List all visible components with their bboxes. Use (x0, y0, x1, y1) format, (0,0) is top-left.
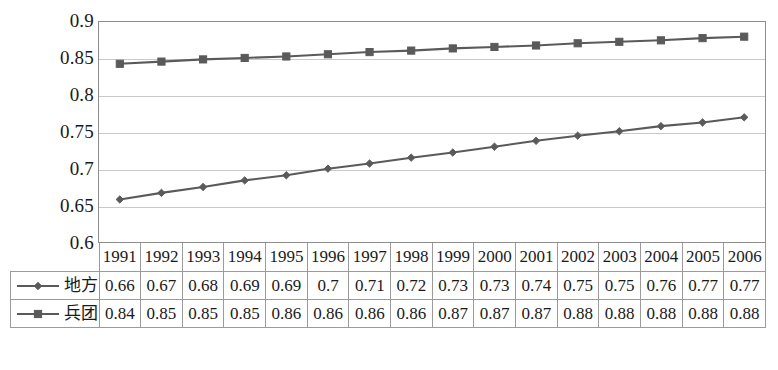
legend-diamond-marker-icon (15, 279, 61, 293)
data-point-marker (366, 160, 373, 167)
table-value-cell: 0.76 (641, 272, 683, 300)
legend-item-1[interactable]: 地方 (11, 272, 100, 300)
table-row: 兵团0.840.850.850.850.860.860.860.860.870.… (11, 300, 766, 328)
y-axis-tick-label: 0.7 (2, 159, 94, 178)
series-overlay (99, 22, 765, 242)
year-header-cell: 1997 (349, 243, 391, 272)
table-value-cell: 0.77 (724, 272, 766, 300)
table-row: 地方0.660.670.680.690.690.70.710.720.730.7… (11, 272, 766, 300)
data-point-marker (532, 42, 539, 49)
table-value-cell: 0.72 (391, 272, 433, 300)
table-value-cell: 0.73 (432, 272, 474, 300)
legend-label: 兵团 (64, 305, 98, 322)
table-value-cell: 0.86 (349, 300, 391, 328)
year-header-cell: 1992 (141, 243, 183, 272)
table-value-cell: 0.85 (141, 300, 183, 328)
year-header-cell: 1996 (307, 243, 349, 272)
data-point-marker (241, 177, 248, 184)
data-point-marker (616, 38, 623, 45)
year-header-cell: 2003 (599, 243, 641, 272)
y-axis-tick-label: 0.9 (2, 11, 94, 30)
series-line (120, 117, 744, 199)
table-header-row: 1991199219931994199519961997199819992000… (11, 243, 766, 272)
data-point-marker (158, 58, 165, 65)
year-header-cell: 2000 (474, 243, 516, 272)
data-point-marker (408, 47, 415, 54)
table-value-cell: 0.68 (182, 272, 224, 300)
y-axis-tick-label: 0.8 (2, 85, 94, 104)
data-point-marker (699, 35, 706, 42)
data-point-marker (657, 37, 664, 44)
table-value-cell: 0.69 (266, 272, 308, 300)
table-corner-cell (11, 243, 100, 272)
year-header-cell: 1995 (266, 243, 308, 272)
data-point-marker (741, 33, 748, 40)
y-axis-tick-label: 0.65 (2, 196, 94, 215)
data-point-marker (616, 128, 623, 135)
table-value-cell: 0.88 (557, 300, 599, 328)
table-value-cell: 0.71 (349, 272, 391, 300)
series-2 (116, 33, 748, 67)
year-header-cell: 2004 (641, 243, 683, 272)
y-axis-tick-label: 0.85 (2, 48, 94, 67)
series-line (120, 37, 744, 64)
table-value-cell: 0.85 (224, 300, 266, 328)
data-point-marker (283, 53, 290, 60)
legend-item-2[interactable]: 兵团 (11, 300, 100, 328)
table-value-cell: 0.69 (224, 272, 266, 300)
year-header-cell: 1998 (391, 243, 433, 272)
table-value-cell: 0.86 (391, 300, 433, 328)
data-point-marker (366, 48, 373, 55)
year-header-cell: 1993 (182, 243, 224, 272)
data-point-marker (241, 54, 248, 61)
table-value-cell: 0.75 (557, 272, 599, 300)
table-value-cell: 0.73 (474, 272, 516, 300)
year-header-cell: 2001 (516, 243, 558, 272)
data-point-marker (116, 196, 123, 203)
y-axis-tick-label: 0.75 (2, 122, 94, 141)
data-table: 1991199219931994199519961997199819992000… (10, 243, 766, 328)
table-value-cell: 0.86 (307, 300, 349, 328)
year-header-cell: 1991 (99, 243, 141, 272)
data-point-marker (491, 43, 498, 50)
data-point-marker (532, 137, 539, 144)
legend-square-marker-icon (15, 307, 61, 321)
year-header-cell: 2006 (724, 243, 766, 272)
plot-area (98, 21, 766, 243)
data-point-marker (574, 132, 581, 139)
data-point-marker (324, 165, 331, 172)
year-header-cell: 1994 (224, 243, 266, 272)
table-value-cell: 0.75 (599, 272, 641, 300)
data-point-marker (699, 119, 706, 126)
data-point-marker (407, 154, 414, 161)
year-header-cell: 2005 (682, 243, 724, 272)
data-point-marker (158, 189, 165, 196)
data-point-marker (574, 40, 581, 47)
data-point-marker (740, 114, 747, 121)
series-1 (116, 114, 748, 203)
table-value-cell: 0.88 (682, 300, 724, 328)
data-point-marker (199, 56, 206, 63)
data-point-marker (491, 143, 498, 150)
table-value-cell: 0.88 (641, 300, 683, 328)
data-point-marker (449, 45, 456, 52)
table-value-cell: 0.77 (682, 272, 724, 300)
table-value-cell: 0.87 (516, 300, 558, 328)
table-value-cell: 0.74 (516, 272, 558, 300)
table-value-cell: 0.84 (99, 300, 141, 328)
y-axis: 0.60.650.70.750.80.850.9 (0, 21, 94, 243)
table-value-cell: 0.88 (724, 300, 766, 328)
table-value-cell: 0.67 (141, 272, 183, 300)
table-value-cell: 0.86 (266, 300, 308, 328)
data-point-marker (283, 172, 290, 179)
table-value-cell: 0.85 (182, 300, 224, 328)
table-value-cell: 0.7 (307, 272, 349, 300)
data-point-marker (116, 60, 123, 67)
year-header-cell: 1999 (432, 243, 474, 272)
table-value-cell: 0.87 (432, 300, 474, 328)
data-point-marker (657, 122, 664, 129)
legend-label: 地方 (64, 277, 98, 294)
year-header-cell: 2002 (557, 243, 599, 272)
table-value-cell: 0.87 (474, 300, 516, 328)
data-point-marker (449, 149, 456, 156)
